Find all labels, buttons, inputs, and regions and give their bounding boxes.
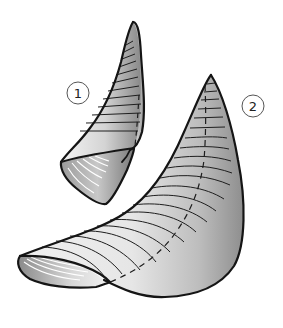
shell-shape-1: [61, 22, 144, 204]
diagram-figure: 1 2: [0, 0, 283, 328]
label-1: 1: [67, 82, 89, 104]
label-1-text: 1: [74, 86, 82, 101]
label-2-text: 2: [249, 99, 257, 114]
label-2: 2: [242, 95, 264, 117]
